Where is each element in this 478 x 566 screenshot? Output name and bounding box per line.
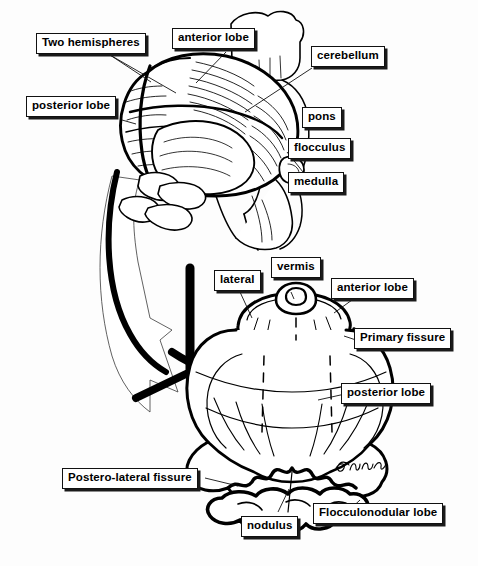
label-flocculonodular-lobe[interactable]: Flocculonodular lobe	[313, 503, 443, 524]
label-cerebellum[interactable]: cerebellum	[311, 46, 385, 67]
figure-canvas: Two hemispheres anterior lobe cerebellum…	[0, 0, 478, 566]
label-postero-lateral-fissure[interactable]: Postero-lateral fissure	[62, 468, 198, 489]
label-posterior-lobe-bottom[interactable]: posterior lobe	[341, 383, 431, 404]
label-primary-fissure[interactable]: Primary fissure	[354, 328, 451, 349]
label-nodulus[interactable]: nodulus	[241, 516, 298, 537]
label-flocculus[interactable]: flocculus	[288, 138, 351, 159]
label-lateral[interactable]: lateral	[214, 270, 261, 291]
label-vermis[interactable]: vermis	[271, 257, 321, 278]
figure-caption	[40, 552, 440, 564]
label-pons[interactable]: pons	[302, 107, 342, 128]
label-anterior-lobe-bottom[interactable]: anterior lobe	[331, 278, 414, 299]
label-medulla[interactable]: medulla	[288, 172, 344, 193]
label-posterior-lobe-top[interactable]: posterior lobe	[26, 96, 116, 117]
label-anterior-lobe-top[interactable]: anterior lobe	[172, 28, 255, 49]
label-two-hemispheres[interactable]: Two hemispheres	[36, 33, 146, 54]
